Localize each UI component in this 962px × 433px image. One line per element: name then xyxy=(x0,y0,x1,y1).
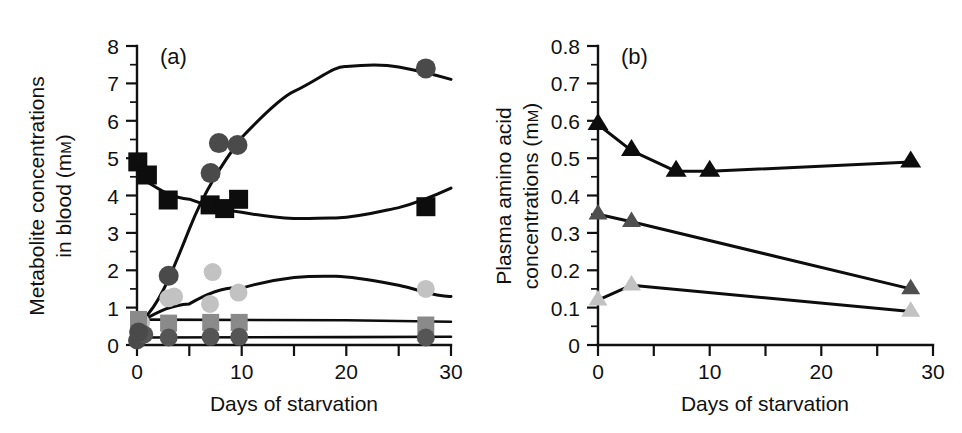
panel-a-xticklabel-10: 10 xyxy=(230,360,253,383)
panel-b-yaxis-title-line1: Plasma amino acid xyxy=(492,107,515,284)
panel-b-label: (b) xyxy=(621,44,648,69)
panel-b-xticklabel-10: 10 xyxy=(698,360,721,383)
panel-a-x-ticks xyxy=(137,345,451,356)
panel-b-xticklabel-20: 20 xyxy=(810,360,833,383)
panel-b-yticklabel-08: 0.8 xyxy=(551,35,580,58)
panel-b-yticklabel-03: 0.3 xyxy=(551,222,580,245)
panel-a-xaxis-title: Days of starvation xyxy=(210,392,378,415)
panel-a-trend-glucose xyxy=(142,179,451,219)
panel-b-xticklabel-0: 0 xyxy=(592,360,604,383)
panel-a-yticklabel-2: 2 xyxy=(107,259,119,282)
panel-a-yticklabel-6: 6 xyxy=(107,110,119,133)
panel-a-yticklabel-1: 1 xyxy=(107,297,119,320)
panel-a-x-ticklabels: 0 10 20 30 xyxy=(131,360,463,383)
panel-a-yaxis-unit-pre: in blood (m xyxy=(52,154,75,258)
panel-b-line-alanine xyxy=(598,214,911,289)
panel-a-xticklabel-20: 20 xyxy=(335,360,358,383)
panel-b-x-ticklabels: 0 10 20 30 xyxy=(592,360,945,383)
panel-b-yticklabel-07: 0.7 xyxy=(551,72,580,95)
panel-a-trend-ketone-bodies xyxy=(142,65,451,321)
panel-a-yticklabel-5: 5 xyxy=(107,147,119,170)
panel-b-yaxis-title-line2: concentrations (mM) xyxy=(519,103,542,289)
panel-b-yticklabel-05: 0.5 xyxy=(551,147,580,170)
panel-b-yticklabel-04: 0.4 xyxy=(551,185,581,208)
panel-a-yticklabel-4: 4 xyxy=(107,185,119,208)
panel-a-y-ticklabels: 8 7 6 5 4 3 2 1 0 xyxy=(107,35,119,357)
panel-a-label: (a) xyxy=(160,44,187,69)
panel-b-yticklabel-01: 0.1 xyxy=(551,297,580,320)
panel-b-yaxis-unit-pre: concentrations (m xyxy=(519,122,542,289)
panel-b-xaxis-title: Days of starvation xyxy=(681,392,849,415)
panel-b-yaxis-unit-post: ) xyxy=(519,103,542,110)
panel-b-yticklabel-02: 0.2 xyxy=(551,259,580,282)
panel-b: 0.8 0.7 0.6 0.5 0.4 0.3 0.2 0.1 0 0 10 2… xyxy=(481,0,962,433)
panel-a-yticklabel-3: 3 xyxy=(107,222,119,245)
panel-a-trend-free-fatty-acids xyxy=(142,276,451,321)
panel-b-x-ticks xyxy=(598,345,933,356)
panel-a-svg: 8 7 6 5 4 3 2 1 0 0 10 20 30 (a) Days of… xyxy=(0,0,481,433)
panel-a-yticklabel-0: 0 xyxy=(107,334,119,357)
panel-a-xticklabel-0: 0 xyxy=(131,360,143,383)
panel-a-yaxis-unit-smallcap: M xyxy=(57,141,74,154)
panel-b-yaxis-unit-smallcap: M xyxy=(524,110,541,123)
panel-b-yticklabel-0: 0 xyxy=(568,334,580,357)
panel-b-line-glycine xyxy=(598,285,911,311)
figure-container: 8 7 6 5 4 3 2 1 0 0 10 20 30 (a) Days of… xyxy=(0,0,962,433)
panel-a-xticklabel-30: 30 xyxy=(439,360,462,383)
panel-b-y-ticklabels: 0.8 0.7 0.6 0.5 0.4 0.3 0.2 0.1 0 xyxy=(551,35,581,357)
panel-a-y-major-ticks xyxy=(126,46,137,345)
panel-b-svg: 0.8 0.7 0.6 0.5 0.4 0.3 0.2 0.1 0 0 10 2… xyxy=(481,0,962,433)
panel-a-yticklabel-7: 7 xyxy=(107,72,119,95)
panel-b-series-total-amino-acids xyxy=(588,113,922,177)
panel-b-xticklabel-30: 30 xyxy=(921,360,944,383)
panel-a-trend-pyruvate xyxy=(137,337,451,338)
panel-a-yticklabel-8: 8 xyxy=(107,35,119,58)
panel-a-trend-lactate xyxy=(141,320,451,322)
panel-b-yticklabel-06: 0.6 xyxy=(551,110,580,133)
panel-a-yaxis-unit-post: ) xyxy=(52,134,75,141)
panel-a-yaxis-title-line1: Metabolite concentrations xyxy=(25,76,48,315)
panel-b-line-total-amino-acids xyxy=(598,125,911,172)
panel-a-yaxis-title-line2: in blood (mM) xyxy=(52,134,75,257)
panel-a: 8 7 6 5 4 3 2 1 0 0 10 20 30 (a) Days of… xyxy=(0,0,481,433)
